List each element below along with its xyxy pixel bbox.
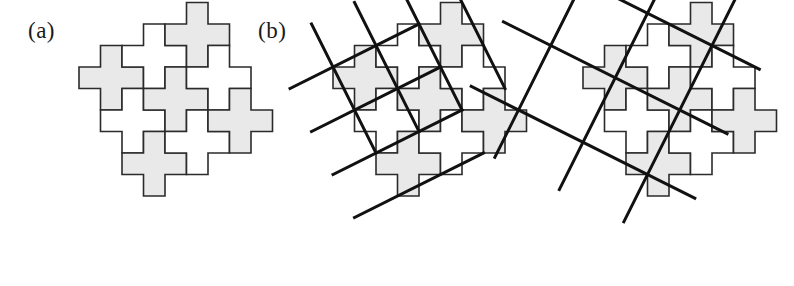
tiling-figure: (a)(b) xyxy=(0,0,794,286)
panel-c-canvas xyxy=(0,0,794,286)
panel-c-tiles xyxy=(583,3,777,197)
panel-c xyxy=(0,0,794,286)
